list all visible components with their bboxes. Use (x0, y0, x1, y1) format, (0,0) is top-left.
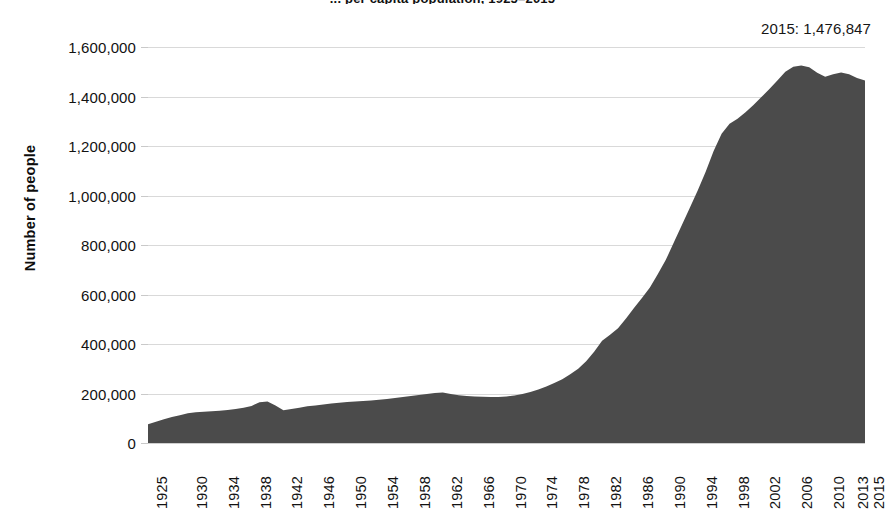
y-axis-tick-mark (141, 245, 148, 246)
end-value-annotation: 2015: 1,476,847 (761, 20, 871, 37)
x-axis-tick-label: 1946 (321, 449, 337, 509)
x-axis-tick-label: 2015 (871, 449, 885, 509)
x-axis-tick-label: 1986 (640, 449, 656, 509)
y-axis-tick-mark (141, 47, 148, 48)
y-axis-tick-mark (141, 295, 148, 296)
y-axis-tick-label: 1,600,000 (68, 39, 136, 56)
y-axis-tick-label: 1,200,000 (68, 138, 136, 155)
y-axis-tick-label: 800,000 (81, 237, 136, 254)
x-axis-tick-label: 1978 (576, 449, 592, 509)
y-axis-tick-label: 1,000,000 (68, 187, 136, 204)
x-axis-tick-label: 2010 (831, 449, 847, 509)
x-axis-tick-label: 1990 (672, 449, 688, 509)
x-axis-tick-label: 1970 (513, 449, 529, 509)
x-axis-tick-label: 1958 (417, 449, 433, 509)
x-axis-tick-label: 1938 (258, 449, 274, 509)
plot-area (148, 47, 865, 443)
x-axis-tick-label: 1942 (289, 449, 305, 509)
x-axis-tick-labels: 1925193019341938194219461950195419581962… (148, 443, 865, 521)
x-axis-tick-label: 2013 (855, 449, 871, 509)
y-axis-tick-label: 1,400,000 (68, 88, 136, 105)
x-axis-tick-label: 1974 (544, 449, 560, 509)
x-axis-tick-label: 1982 (608, 449, 624, 509)
area-series (148, 47, 865, 443)
x-axis-tick-label: 1954 (385, 449, 401, 509)
x-axis-tick-label: 1966 (481, 449, 497, 509)
y-axis-tick-mark (141, 196, 148, 197)
x-axis-tick-label: 1962 (449, 449, 465, 509)
y-axis-tick-mark (141, 146, 148, 147)
y-axis-tick-mark (141, 344, 148, 345)
y-axis-tick-label: 600,000 (81, 286, 136, 303)
x-axis-tick-label: 1930 (194, 449, 210, 509)
y-axis-tick-label: 200,000 (81, 385, 136, 402)
y-axis-tick-mark (141, 394, 148, 395)
x-axis-tick-label: 1925 (154, 449, 170, 509)
x-axis-tick-label: 2006 (799, 449, 815, 509)
x-axis-tick-label: 1998 (736, 449, 752, 509)
y-axis-tick-label: 0 (128, 435, 136, 452)
x-axis-tick-label: 2002 (767, 449, 783, 509)
x-axis-tick-label: 1950 (353, 449, 369, 509)
chart-figure: ... per capita population, 1925–2015 201… (0, 0, 885, 521)
y-axis-tick-mark (141, 443, 148, 444)
x-axis-tick-label: 1994 (704, 449, 720, 509)
y-axis-tick-label: 400,000 (81, 336, 136, 353)
y-axis-tick-labels: 1,600,0001,400,0001,200,0001,000,000800,… (0, 0, 148, 521)
x-axis-tick-label: 1934 (226, 449, 242, 509)
y-axis-tick-mark (141, 97, 148, 98)
